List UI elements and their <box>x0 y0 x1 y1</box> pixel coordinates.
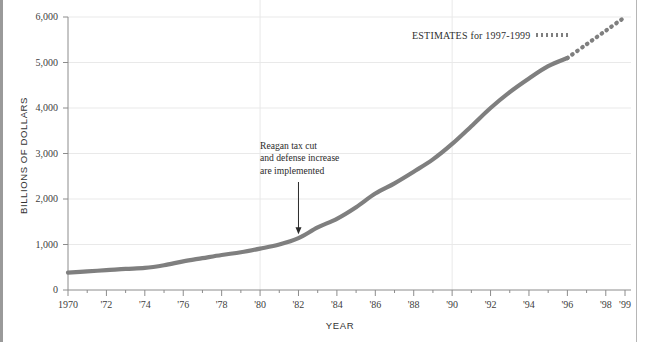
x-tick-label: '88 <box>394 299 434 310</box>
x-tick-label: '96 <box>547 299 587 310</box>
annotation-arrow <box>295 182 301 234</box>
y-tick-label: 1,000 <box>12 239 58 250</box>
x-tick-label: '90 <box>432 299 472 310</box>
legend-label: ESTIMATES for 1997-1999 <box>412 30 530 41</box>
x-tick-label: '84 <box>317 299 357 310</box>
x-axis-title: YEAR <box>280 320 400 331</box>
y-tick-label: 0 <box>12 284 58 295</box>
dotted-line-swatch <box>536 33 570 37</box>
x-tick-label: '94 <box>509 299 549 310</box>
x-tick-label: '74 <box>125 299 165 310</box>
x-tick-label: '92 <box>471 299 511 310</box>
x-tick-label: '80 <box>240 299 280 310</box>
x-tick-label: '82 <box>278 299 318 310</box>
y-tick-label: 6,000 <box>12 11 58 22</box>
public-debt-chart-figure: deficit spending, pushed the public debt… <box>0 0 647 342</box>
x-tick-label: '76 <box>163 299 203 310</box>
y-axis-title: BILLIONS OF DOLLARS <box>18 81 29 231</box>
x-tick-label: '86 <box>355 299 395 310</box>
y-axis-ticks <box>63 17 68 290</box>
x-tick-label: 1970 <box>48 299 88 310</box>
y-tick-label: 5,000 <box>12 57 58 68</box>
x-tick-label: '78 <box>202 299 242 310</box>
x-axis-ticks <box>68 290 625 296</box>
x-tick-label: '99 <box>605 299 645 310</box>
x-tick-label: '72 <box>86 299 126 310</box>
debt-line-estimates <box>567 17 625 58</box>
reagan-annotation-text: Reagan tax cut and defense increase are … <box>260 140 339 177</box>
chart-legend: ESTIMATES for 1997-1999 <box>412 28 570 42</box>
